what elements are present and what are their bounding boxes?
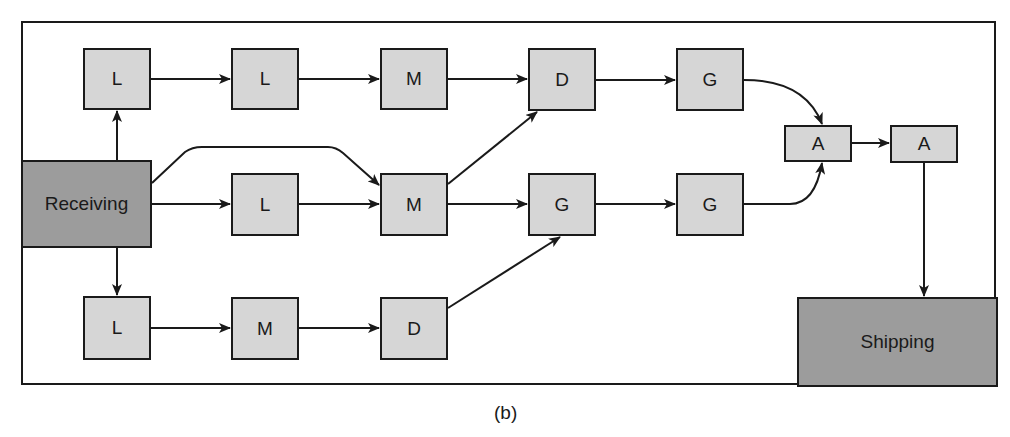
station-label: L: [112, 68, 123, 90]
station-label: L: [112, 317, 123, 339]
station-bot-mill: M: [231, 297, 299, 360]
station-top-lathe-2: L: [231, 48, 299, 110]
station-mid-mill: M: [380, 173, 448, 236]
station-label: A: [812, 133, 825, 155]
figure-caption: (b): [494, 402, 517, 424]
station-label: A: [918, 133, 931, 155]
station-bot-drill: D: [380, 297, 448, 360]
receiving-label: Receiving: [45, 193, 128, 215]
station-label: M: [257, 318, 273, 340]
station-top-grinder: G: [676, 48, 744, 111]
station-label: L: [260, 194, 271, 216]
station-label: D: [407, 318, 421, 340]
station-mid-grinder-1: G: [528, 173, 596, 236]
station-top-mill: M: [380, 48, 448, 110]
station-label: L: [260, 68, 271, 90]
shipping-dock: Shipping: [797, 297, 998, 387]
station-assembly-1: A: [784, 125, 852, 162]
station-mid-grinder-2: G: [676, 173, 744, 236]
station-label: M: [406, 68, 422, 90]
station-label: G: [555, 194, 570, 216]
receiving-dock: Receiving: [21, 160, 152, 248]
station-bot-lathe: L: [83, 296, 151, 360]
shipping-label: Shipping: [861, 331, 935, 353]
station-label: G: [703, 69, 718, 91]
station-label: D: [555, 69, 569, 91]
station-mid-lathe: L: [231, 173, 299, 236]
station-top-lathe-1: L: [83, 48, 151, 110]
station-label: M: [406, 194, 422, 216]
station-assembly-2: A: [890, 125, 958, 163]
station-top-drill: D: [528, 48, 596, 111]
station-label: G: [703, 194, 718, 216]
